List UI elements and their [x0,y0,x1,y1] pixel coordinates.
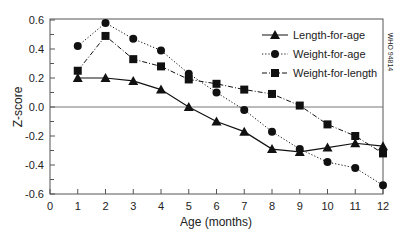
circle-marker [157,46,165,54]
square-marker [240,86,248,94]
plot-frame [50,19,383,194]
triangle-marker [239,127,249,136]
legend-item-weight-for-age: Weight-for-age [262,48,366,60]
circle-marker [102,19,110,27]
series-layer [73,19,388,189]
circle-marker [379,181,387,189]
legend-label: Weight-for-length [293,67,377,79]
x-tick-label: 12 [377,200,389,212]
y-tick-label: -0.2 [25,130,44,142]
triangle-marker [267,144,277,153]
y-tick-label: -0.6 [25,188,44,200]
square-marker [268,90,276,98]
x-axis-label: Age (months) [180,215,252,229]
x-tick-label: 6 [213,200,219,212]
series-weight-for-age [74,19,387,189]
legend-label: Length-for-age [293,29,365,41]
x-tick-label: 1 [75,200,81,212]
x-tick-label: 3 [130,200,136,212]
y-axis-label: Z-score [11,86,25,127]
square-icon [271,69,279,77]
y-tick-label: 0.2 [29,72,44,84]
square-marker [157,62,165,70]
legend-label: Weight-for-age [293,48,366,60]
circle-marker [268,128,276,136]
x-tick-label: 9 [297,200,303,212]
circle-marker [240,106,248,114]
series-line [78,78,383,152]
square-marker [324,120,332,128]
x-tick-label: 2 [102,200,108,212]
square-marker [185,75,193,83]
circle-marker [129,35,137,43]
legend-item-weight-for-length: Weight-for-length [262,67,377,79]
square-marker [379,149,387,157]
circle-marker [351,164,359,172]
y-tick-label: 0.4 [29,43,44,55]
square-marker [102,32,110,40]
x-tick-label: 11 [350,200,361,212]
y-tick-label: 0.0 [29,101,44,113]
legend-item-length-for-age: Length-for-age [262,29,365,41]
triangle-marker [212,117,222,126]
x-tick-label: 10 [321,200,333,212]
square-marker [351,132,359,140]
legend: Length-for-ageWeight-for-ageWeight-for-l… [262,29,377,79]
circle-marker [296,145,304,153]
z-score-chart: 0.60.40.20.0-0.2-0.4-0.6 012345678910111… [0,0,408,241]
circle-icon [271,50,279,58]
x-tick-label: 8 [269,200,275,212]
square-marker [74,67,82,75]
circle-marker [74,42,82,50]
y-tick-label: -0.4 [25,159,44,171]
x-tick-label: 0 [47,200,53,212]
y-tick-labels: 0.60.40.20.0-0.2-0.4-0.6 [25,14,44,200]
x-tick-label: 4 [158,200,164,212]
series-length-for-age [73,73,388,156]
circle-marker [324,158,332,166]
x-tick-labels: 0123456789101112 [47,200,389,212]
x-tick-label: 5 [186,200,192,212]
square-marker [213,80,221,88]
square-marker [129,55,137,63]
figure-id-annotation: WHO 94814 [387,33,394,72]
circle-marker [213,89,221,97]
square-marker [296,102,304,110]
y-tick-label: 0.6 [29,14,44,26]
x-tick-label: 7 [241,200,247,212]
